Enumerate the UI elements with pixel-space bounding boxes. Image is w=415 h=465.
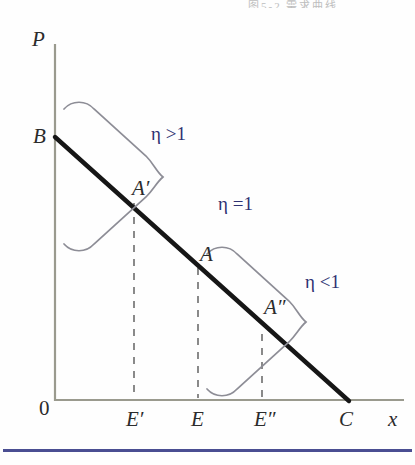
point-label-a-prime: A′ [132, 178, 149, 199]
xtick-label-e-double-prime: E″ [254, 409, 276, 430]
xtick-label-e: E [191, 409, 204, 430]
x-axis-label: x [388, 409, 397, 430]
origin-label: 0 [39, 398, 50, 419]
annotation-eta-equals-one: η =1 [218, 194, 253, 213]
diagram-svg [0, 0, 415, 465]
point-label-a-double-prime: A″ [264, 297, 286, 318]
point-label-c: C [339, 409, 353, 430]
point-label-b: B [33, 126, 46, 147]
xtick-label-e-prime: E′ [126, 409, 143, 430]
bottom-rule [3, 449, 412, 452]
point-label-a: A [200, 244, 213, 265]
y-axis-label: P [32, 29, 45, 50]
annotation-eta-less-than-one: η <1 [305, 272, 340, 291]
demand-curve [55, 137, 349, 401]
brace-inelastic [207, 247, 306, 396]
annotation-eta-greater-than-one: η >1 [151, 124, 186, 143]
figure-canvas: 图5-2 需求曲线 P x 0 B C A′ A A″ E′ E E″ η >1 [0, 0, 415, 465]
